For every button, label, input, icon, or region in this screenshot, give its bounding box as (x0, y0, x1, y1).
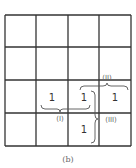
cell-r2-c1: 1 (49, 92, 55, 103)
figure-caption: (b) (62, 155, 73, 164)
grid (5, 15, 131, 146)
karnaugh-map: 1 1 1 1 (I) (II) (III) (b) (0, 0, 136, 168)
brace-group-i (41, 105, 90, 112)
brace-group-iii (91, 91, 98, 143)
label-group-ii: (II) (102, 74, 112, 82)
brace-group-ii (80, 83, 128, 90)
label-group-iii: (III) (105, 116, 117, 124)
label-group-i: (I) (56, 115, 64, 123)
cell-r3-c2: 1 (81, 124, 87, 135)
cell-r2-c2: 1 (81, 92, 87, 103)
cell-r2-c3: 1 (112, 92, 118, 103)
